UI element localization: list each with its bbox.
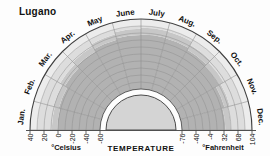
month-label-July: July [148,8,166,19]
fahrenheit-axis-label: °Fahrenheit [186,143,260,152]
month-label-Nov.: Nov. [245,77,260,96]
month-label-Jan.: Jan. [16,108,27,125]
radial-temperature-chart: 40200-20-40-60-76-40-43268104Jan.Feb.Mar… [0,0,270,156]
fahrenheit-tick-68: 68 [235,133,242,141]
center-disc [106,95,176,130]
fahrenheit-tick-32: 32 [221,133,228,141]
celsius-tick-40: 40 [27,133,34,141]
fahrenheit-tick--4: -4 [207,133,214,139]
month-label-June: June [115,7,135,18]
celsius-tick-0: 0 [55,133,62,137]
climate-wheel-screenshot: Lugano 40200-20-40-60-76-40-43268104Jan.… [0,0,270,156]
month-label-Feb.: Feb. [22,77,37,96]
fahrenheit-tick--76: -76 [179,133,186,143]
chart-title: Lugano [19,6,56,17]
temperature-axis-label: TEMPERATURE [94,144,188,153]
celsius-tick-20: 20 [41,133,48,141]
celsius-axis-label: °Celsius [30,143,102,152]
month-label-Dec.: Dec. [255,108,266,126]
